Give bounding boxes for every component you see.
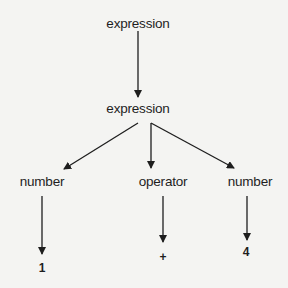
node-number-right: number — [228, 174, 273, 189]
leaf-1: 1 — [39, 261, 45, 275]
edge-expr-number2 — [151, 123, 234, 168]
leaf-plus: + — [160, 250, 167, 264]
node-expression-root: expression — [106, 16, 169, 31]
parse-tree-diagram: expression expression number operator nu… — [0, 0, 288, 288]
edge-expr-number1 — [64, 123, 138, 169]
leaf-4: 4 — [243, 245, 249, 259]
node-expression: expression — [106, 101, 169, 116]
node-number-left: number — [20, 174, 65, 189]
node-operator: operator — [139, 174, 188, 189]
